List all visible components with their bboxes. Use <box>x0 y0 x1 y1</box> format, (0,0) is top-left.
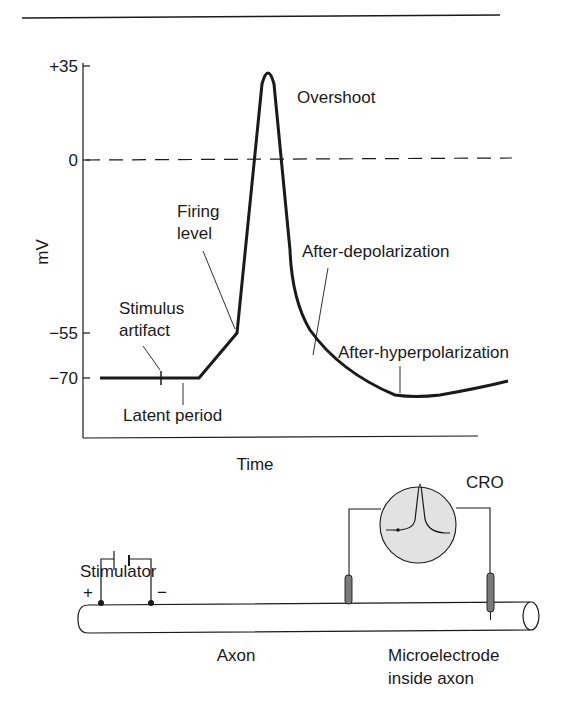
label-after-hyperpolarization: After-hyperpolarization <box>338 343 509 362</box>
y-tick-label: +35 <box>49 57 78 76</box>
label-latent-period: Latent period <box>123 406 222 425</box>
leader-firing-level <box>203 251 235 329</box>
label-stimulator: Stimulator <box>80 562 157 581</box>
y-tick-label: 0 <box>69 151 78 170</box>
axon-cylinder <box>78 602 530 633</box>
zero-reference-line <box>86 158 512 160</box>
cro-wire-left <box>349 509 381 576</box>
label-minus: − <box>157 583 167 602</box>
top-rule <box>22 15 500 18</box>
membrane-potential-graph: +35 0 −55 −70 mV Time Overshoot Firing l… <box>33 57 512 474</box>
y-tick-label: −55 <box>49 324 78 343</box>
cro-trace-marker <box>396 528 400 532</box>
label-microelectrode-2: inside axon <box>388 669 474 688</box>
label-after-depolarization: After-depolarization <box>302 242 449 261</box>
label-microelectrode-1: Microelectrode <box>388 646 500 665</box>
surface-electrode <box>345 575 352 604</box>
axon-end-cap <box>523 602 539 630</box>
label-stimulus-artifact-1: Stimulus <box>119 299 184 318</box>
leader-stimulus-artifact <box>143 346 160 370</box>
x-axis-label: Time <box>236 455 273 474</box>
label-firing-level-2: level <box>177 224 212 243</box>
label-plus: + <box>83 583 93 602</box>
recording-apparatus: Axon Stimulator + − CRO Microelectrode i… <box>78 473 539 688</box>
y-axis-label: mV <box>33 239 52 265</box>
label-cro: CRO <box>466 473 504 492</box>
y-tick-label: −70 <box>49 369 78 388</box>
label-axon: Axon <box>217 646 256 665</box>
cathode-contact <box>148 600 154 606</box>
label-overshoot: Overshoot <box>297 88 376 107</box>
anode-contact <box>98 600 104 606</box>
action-potential-figure: +35 0 −55 −70 mV Time Overshoot Firing l… <box>0 0 575 710</box>
label-firing-level-1: Firing <box>177 202 220 221</box>
microelectrode <box>487 573 494 612</box>
cro-wire-right <box>456 508 490 573</box>
label-stimulus-artifact-2: artifact <box>119 321 170 340</box>
x-axis <box>83 436 478 438</box>
